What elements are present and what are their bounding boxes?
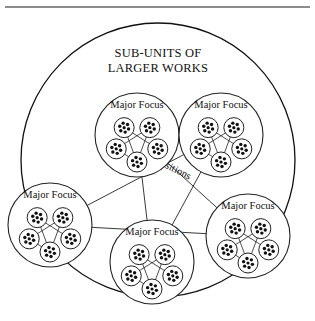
dot (121, 121, 124, 124)
focus-label: Major Focus (125, 226, 178, 237)
dot (224, 244, 227, 247)
sub-unit (224, 118, 244, 138)
dot (159, 252, 162, 255)
dot (70, 242, 73, 245)
dot (65, 236, 68, 239)
focus-group-top-right: Major Focus (179, 93, 263, 177)
dot (205, 121, 208, 124)
dot (160, 256, 163, 259)
dot (264, 228, 267, 231)
dot (126, 123, 129, 126)
dot (168, 277, 171, 280)
dot (29, 242, 32, 245)
dot (113, 143, 116, 146)
sub-unit (121, 266, 141, 286)
dot (40, 217, 43, 220)
dot (118, 144, 121, 147)
focus-label: Major Focus (221, 200, 274, 211)
dot (247, 266, 250, 269)
dot (58, 219, 61, 222)
dot (131, 279, 134, 282)
sub-unit (251, 219, 271, 239)
dot (203, 129, 206, 132)
dot (162, 248, 165, 251)
focus-group-left: Major Focus (8, 183, 92, 267)
dot (231, 121, 234, 124)
dot (135, 160, 138, 163)
dot (243, 264, 246, 267)
dot (138, 257, 141, 260)
dot (197, 143, 200, 146)
dot (172, 279, 175, 282)
dot (232, 126, 235, 129)
dot (268, 253, 271, 256)
title-line-1: SUB-UNITS OF (115, 46, 202, 60)
dot (123, 126, 126, 129)
sub-unit (259, 240, 279, 260)
dot (155, 143, 158, 146)
dot (146, 286, 149, 289)
dot (28, 237, 31, 240)
dot (61, 216, 64, 219)
dot (207, 130, 210, 133)
dot (266, 244, 269, 247)
dot (220, 165, 223, 168)
dot (26, 233, 29, 236)
dot (62, 220, 65, 223)
dot (153, 150, 156, 153)
dot (138, 253, 141, 256)
dot (215, 159, 218, 162)
dot (149, 130, 152, 133)
sub-unit (155, 245, 175, 265)
dot (72, 234, 75, 237)
dot (60, 211, 63, 214)
sub-unit (198, 118, 218, 138)
dot (139, 157, 142, 160)
dot (229, 129, 232, 132)
dot (230, 230, 233, 233)
dot (202, 144, 205, 147)
dot (68, 233, 71, 236)
dot (130, 274, 133, 277)
dot (175, 276, 178, 279)
sub-unit (225, 219, 245, 239)
dot (226, 248, 229, 251)
dot (141, 250, 144, 253)
sub-unit (148, 139, 168, 159)
dot (31, 234, 34, 237)
dot (258, 222, 261, 225)
dot (234, 227, 237, 230)
dot (154, 284, 157, 287)
sub-unit (27, 208, 47, 228)
dot (151, 292, 154, 295)
dot (237, 150, 240, 153)
dot (244, 149, 247, 152)
dot (237, 224, 240, 227)
dot (199, 147, 202, 150)
dot (152, 146, 155, 149)
dot (48, 250, 51, 253)
dot (31, 215, 34, 218)
dot (36, 216, 39, 219)
dot (263, 224, 266, 227)
dot (126, 277, 129, 280)
dot (163, 253, 166, 256)
dot (203, 149, 206, 152)
dot (219, 160, 222, 163)
dot (218, 156, 221, 159)
dot (116, 152, 119, 155)
dot (118, 125, 121, 128)
dot (127, 127, 130, 130)
dot (152, 123, 155, 126)
sub-unit (106, 139, 126, 159)
dot (270, 245, 273, 248)
dot (133, 252, 136, 255)
dot (39, 213, 42, 216)
dot (134, 256, 137, 259)
dot (24, 240, 27, 243)
dot (170, 270, 173, 273)
dot (148, 126, 151, 129)
dot (246, 261, 249, 264)
sub-unit (40, 242, 60, 262)
dot (110, 146, 113, 149)
